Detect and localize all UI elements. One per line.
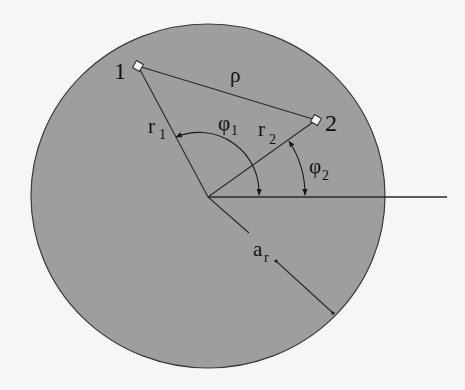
point-2-label: 2 [325,110,337,136]
polar-coordinates-diagram: 1 2 ρ r 1 r 2 φ 1 φ 2 a r [0,0,465,390]
point-1-label: 1 [114,58,126,84]
radius-dot-end [331,311,334,314]
radius-subscript: r [264,250,269,265]
phi1-label: φ [218,111,230,135]
r2-label: r [258,117,265,141]
phi2-label: φ [309,154,321,178]
phi2-subscript: 2 [322,168,329,183]
radius-dot-start [274,259,277,262]
radius-label: a [253,237,263,261]
phi1-subscript: 1 [231,123,238,138]
r1-label: r [148,114,155,138]
r1-subscript: 1 [159,127,166,142]
rho-label: ρ [230,63,240,87]
r2-subscript: 2 [269,132,276,147]
